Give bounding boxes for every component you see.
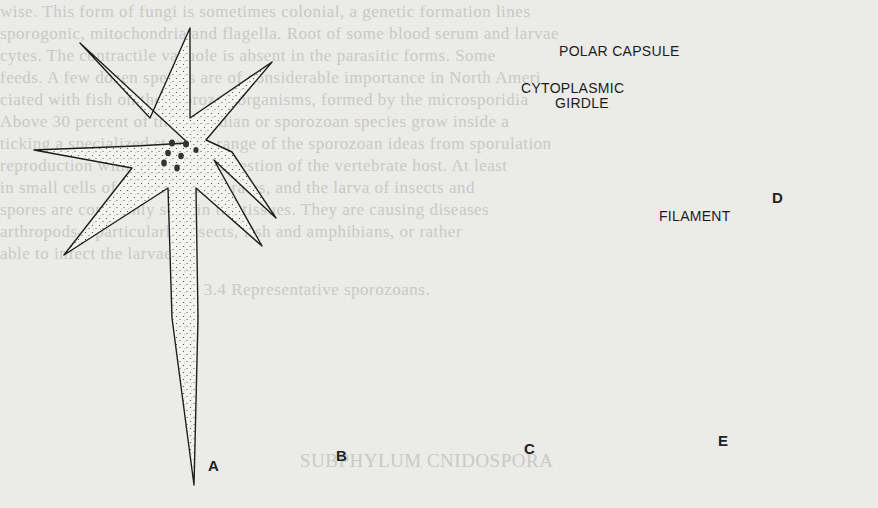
panel-label-d: D (772, 189, 783, 206)
callout-cytoplasmic-girdle-1: CYTOPLASMIC (521, 81, 624, 96)
panel-label-b: B (336, 447, 347, 464)
panel-a-stellate-cell (34, 28, 276, 485)
callout-filament: FILAMENT (659, 209, 731, 224)
sporozoa-figure (0, 0, 878, 508)
panel-label-a: A (208, 457, 219, 474)
panel-label-c: C (524, 440, 535, 457)
panel-label-e: E (718, 432, 728, 449)
callout-polar-capsule: POLAR CAPSULE (559, 44, 680, 59)
callout-cytoplasmic-girdle-2: GIRDLE (555, 96, 609, 111)
